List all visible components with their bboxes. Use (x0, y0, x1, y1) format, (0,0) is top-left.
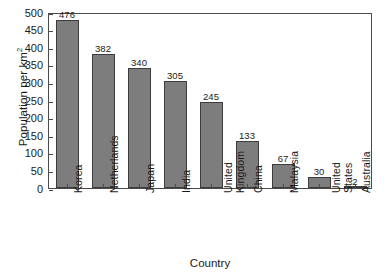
x-axis-tick-label-line: Netherlands (108, 135, 120, 193)
x-axis-tick-label: UnitedStates (330, 133, 354, 193)
y-axis-tick-label: 250 (15, 96, 43, 107)
x-axis-tick-label-line: India (180, 170, 192, 193)
bar-chart-figure: Population per km2 050100150200250300350… (0, 0, 384, 276)
x-axis-tick-mark (319, 184, 320, 188)
x-axis-tick-labels: KoreaNetherlandsJapanIndiaUnitedKingdomC… (48, 189, 372, 251)
x-axis-title: Country (48, 256, 372, 270)
y-axis-tick-label: 500 (15, 8, 43, 19)
x-axis-tick-mark (247, 184, 248, 188)
x-axis-tick-mark (211, 184, 212, 188)
x-axis-tick-mark (67, 184, 68, 188)
y-axis-tick-label: 100 (15, 148, 43, 159)
x-axis-tick-label: India (180, 170, 192, 193)
x-axis-tick-label-line: Korea (72, 164, 84, 193)
x-axis-tick-label-line: Kingdom (234, 133, 246, 193)
x-axis-tick-mark (175, 184, 176, 188)
x-axis-tick-mark (283, 184, 284, 188)
y-axis-tick-mark (49, 172, 53, 173)
bar (56, 20, 79, 188)
y-axis-tick-mark (49, 84, 53, 85)
x-axis-tick-mark (139, 184, 140, 188)
bar-value-label: 382 (83, 44, 123, 54)
y-axis-tick-label: 150 (15, 131, 43, 142)
y-axis-tick-label: 0 (15, 184, 43, 195)
y-axis-tick-label: 400 (15, 43, 43, 54)
x-axis-tick-label-line: Australia (360, 151, 372, 193)
y-axis-tick-mark (49, 49, 53, 50)
plot-area: 47638234030524513367302 (48, 13, 372, 189)
y-axis-tick-labels: 050100150200250300350400450500 (14, 0, 43, 276)
x-axis-tick-label-line: Japan (144, 164, 156, 193)
x-axis-tick-mark (355, 184, 356, 188)
y-axis-tick-mark (49, 66, 53, 67)
x-axis-tick-label: China (252, 165, 264, 193)
y-axis-tick-label: 300 (15, 78, 43, 89)
x-axis-tick-label-line: United (330, 133, 342, 193)
y-axis-tick-label: 200 (15, 113, 43, 124)
x-axis-tick-label: Korea (72, 164, 84, 193)
x-axis-tick-label-line: China (252, 165, 264, 193)
x-axis-tick-label: Netherlands (108, 135, 120, 193)
bar-value-label: 476 (47, 10, 87, 20)
x-axis-tick-mark (103, 184, 104, 188)
x-axis-tick-label: Japan (144, 164, 156, 193)
x-axis-tick-label-line: Malaysia (288, 151, 300, 193)
y-axis-tick-mark (49, 102, 53, 103)
y-axis-tick-mark (49, 154, 53, 155)
y-axis-tick-mark (49, 31, 53, 32)
y-axis-tick-mark (49, 119, 53, 120)
bar-value-label: 245 (191, 92, 231, 102)
x-axis-tick-label: Malaysia (288, 151, 300, 193)
x-axis-tick-label-line: States (342, 133, 354, 193)
x-axis-tick-label: Australia (360, 151, 372, 193)
bar-value-label: 340 (119, 58, 159, 68)
y-axis-tick-mark (49, 137, 53, 138)
y-axis-tick-label: 450 (15, 25, 43, 36)
x-axis-tick-label-line: United (222, 133, 234, 193)
y-axis-tick-label: 350 (15, 60, 43, 71)
y-axis-tick-label: 50 (15, 166, 43, 177)
bar-value-label: 305 (155, 71, 195, 81)
bar (200, 102, 223, 188)
x-axis-tick-label: UnitedKingdom (222, 133, 246, 193)
